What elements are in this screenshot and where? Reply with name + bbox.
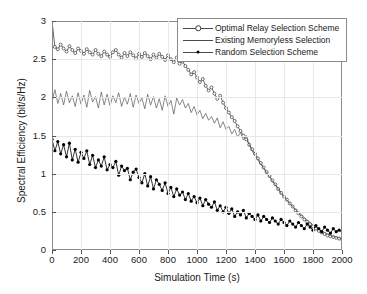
gridline-horizontal xyxy=(52,212,342,213)
y-axis-title: Spectral Efficiency (bit/s/Hz) xyxy=(16,36,27,246)
gridline-horizontal xyxy=(52,174,342,175)
gridline-horizontal xyxy=(52,97,342,98)
x-axis-title: Simulation Time (s) xyxy=(52,272,342,283)
y-tick xyxy=(52,97,56,98)
x-tick-label: 1800 xyxy=(302,255,323,265)
chart-figure: Spectral Efficiency (bit/s/Hz) 020040060… xyxy=(0,0,367,294)
legend-item-random: Random Selection Scheme xyxy=(181,46,342,58)
legend-swatch-open-circle-icon xyxy=(181,22,215,34)
y-tick xyxy=(52,59,56,60)
x-tick-label: 1400 xyxy=(244,255,265,265)
y-tick-label: 2 xyxy=(41,93,46,103)
legend-swatch-filled-dot-icon xyxy=(181,46,215,58)
x-tick-label: 2000 xyxy=(331,255,352,265)
y-tick-label: 1.5 xyxy=(33,131,46,141)
x-tick-label: 1000 xyxy=(186,255,207,265)
x-tick-label: 0 xyxy=(49,255,54,265)
legend-label-memoryless: Existing Memoryless Selection xyxy=(215,34,330,46)
y-tick xyxy=(52,250,56,251)
x-tick-label: 400 xyxy=(102,255,118,265)
legend-label-random: Random Selection Scheme xyxy=(215,46,318,58)
gridline-horizontal xyxy=(52,136,342,137)
y-tick-label: 0 xyxy=(41,245,46,255)
x-tick-label: 800 xyxy=(160,255,176,265)
legend-item-memoryless: Existing Memoryless Selection xyxy=(181,34,342,46)
legend-item-optimal: Optimal Relay Selection Scheme xyxy=(181,22,342,34)
y-tick-label: 2.5 xyxy=(33,54,46,64)
x-tick-label: 200 xyxy=(73,255,89,265)
x-tick-label: 1200 xyxy=(215,255,236,265)
y-tick-label: 0.5 xyxy=(33,207,46,217)
legend-swatch-line-icon xyxy=(181,34,215,46)
y-tick xyxy=(52,136,56,137)
y-tick xyxy=(52,174,56,175)
x-tick-label: 1600 xyxy=(273,255,294,265)
x-tick-label: 600 xyxy=(131,255,147,265)
chart-legend: Optimal Relay Selection Scheme Existing … xyxy=(177,18,347,62)
y-tick-label: 3 xyxy=(41,16,46,26)
y-tick-label: 1 xyxy=(41,169,46,179)
legend-label-optimal: Optimal Relay Selection Scheme xyxy=(215,22,339,34)
y-tick xyxy=(52,21,56,22)
y-tick xyxy=(52,212,56,213)
